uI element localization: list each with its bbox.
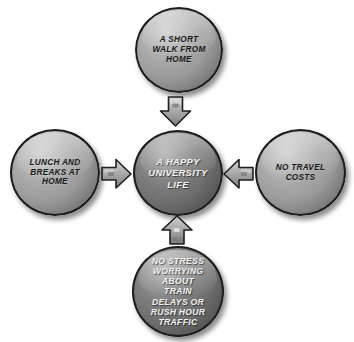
node-top-label: A SHORT WALK FROM HOME [143, 35, 214, 64]
arrow-up-icon [161, 215, 193, 245]
arrow-left-icon [223, 158, 254, 189]
diagram-canvas: A SHORT WALK FROM HOME LUNCH AND BREAKS … [0, 0, 354, 342]
node-right[interactable]: NO TRAVEL COSTS [255, 129, 346, 216]
node-bottom-label: NO STRESS WORRYING ABOUT TRAIN DELAYS OR… [145, 256, 212, 327]
node-right-label: NO TRAVEL COSTS [267, 163, 334, 182]
node-left[interactable]: LUNCH AND BREAKS AT HOME [10, 129, 100, 216]
node-center-label: A HAPPY UNIVERSITY LIFE [139, 156, 216, 189]
arrow-down-icon [159, 96, 192, 127]
node-top[interactable]: A SHORT WALK FROM HOME [135, 7, 223, 93]
arrow-right-icon [101, 158, 132, 189]
node-bottom[interactable]: NO STRESS WORRYING ABOUT TRAIN DELAYS OR… [132, 246, 224, 337]
node-left-label: LUNCH AND BREAKS AT HOME [20, 158, 89, 187]
node-center[interactable]: A HAPPY UNIVERSITY LIFE [133, 130, 223, 216]
